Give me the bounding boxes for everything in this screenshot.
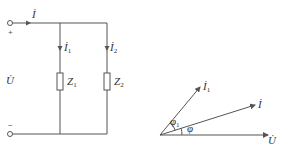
branch1-current-label: İ1: [63, 41, 72, 55]
branch1-current-phasor-label: İ1: [202, 80, 211, 94]
plus-sign: +: [8, 28, 13, 37]
bottom-terminal: [8, 132, 13, 137]
branch2-current-label: İ2: [109, 41, 118, 55]
voltage-label: U̇: [6, 74, 15, 86]
phasor-diagram: U̇ İ İ1 φ φ1: [160, 80, 277, 146]
voltage-phasor-label: U̇: [268, 134, 277, 146]
impedance2-resistor: [104, 73, 110, 90]
branch1-current-arrow-icon: [58, 46, 63, 51]
branch1-current-phasor-arrow: [160, 87, 200, 135]
circuit-diagram: İ + İ1 Z1 İ2 Z2 U̇ −: [6, 8, 124, 137]
angle-phi-label: φ: [187, 122, 193, 134]
minus-sign: −: [8, 121, 13, 130]
top-terminal: [8, 21, 13, 26]
angle-phi-arc: [181, 128, 182, 135]
circuit-and-phasor-diagram: İ + İ1 Z1 İ2 Z2 U̇ − U̇ İ İ1 φ φ1: [0, 0, 283, 147]
impedance1-label: Z1: [67, 75, 77, 89]
total-current-label: İ: [31, 8, 37, 20]
total-current-arrow-icon: [26, 21, 31, 26]
angle-phi1-label: φ1: [170, 115, 180, 129]
impedance2-label: Z2: [114, 75, 124, 89]
branch2-current-arrow-icon: [105, 46, 110, 51]
total-current-phasor-label: İ: [257, 98, 263, 110]
impedance1-resistor: [57, 73, 63, 90]
